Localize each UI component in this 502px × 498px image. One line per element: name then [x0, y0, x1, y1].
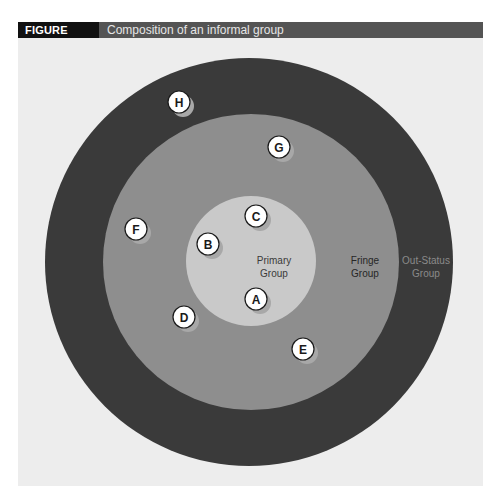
- out-status-group-label-line1: Out-Status: [402, 255, 450, 266]
- member-letter: B: [204, 238, 213, 252]
- member-letter: A: [252, 293, 261, 307]
- out-status-group-label-line2: Group: [412, 268, 440, 279]
- fringe-group-label-line1: Fringe: [351, 255, 380, 266]
- member-letter: E: [299, 343, 307, 357]
- group-diagram: Primary Group Fringe Group Out-Status Gr…: [0, 0, 502, 498]
- primary-group-label-line1: Primary: [257, 255, 291, 266]
- member-letter: H: [175, 96, 184, 110]
- primary-group-label-line2: Group: [260, 268, 288, 279]
- fringe-group-label-line2: Group: [351, 268, 379, 279]
- member-letter: F: [132, 223, 139, 237]
- member-letter: D: [180, 311, 189, 325]
- member-letter: C: [252, 210, 261, 224]
- member-letter: G: [274, 141, 283, 155]
